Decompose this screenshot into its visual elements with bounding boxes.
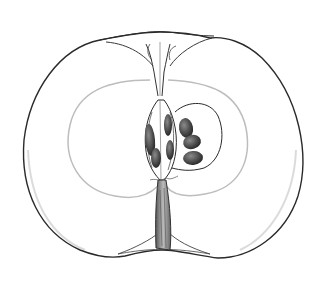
illustration-canvas [0, 0, 327, 286]
apple-cross-section [0, 0, 327, 286]
